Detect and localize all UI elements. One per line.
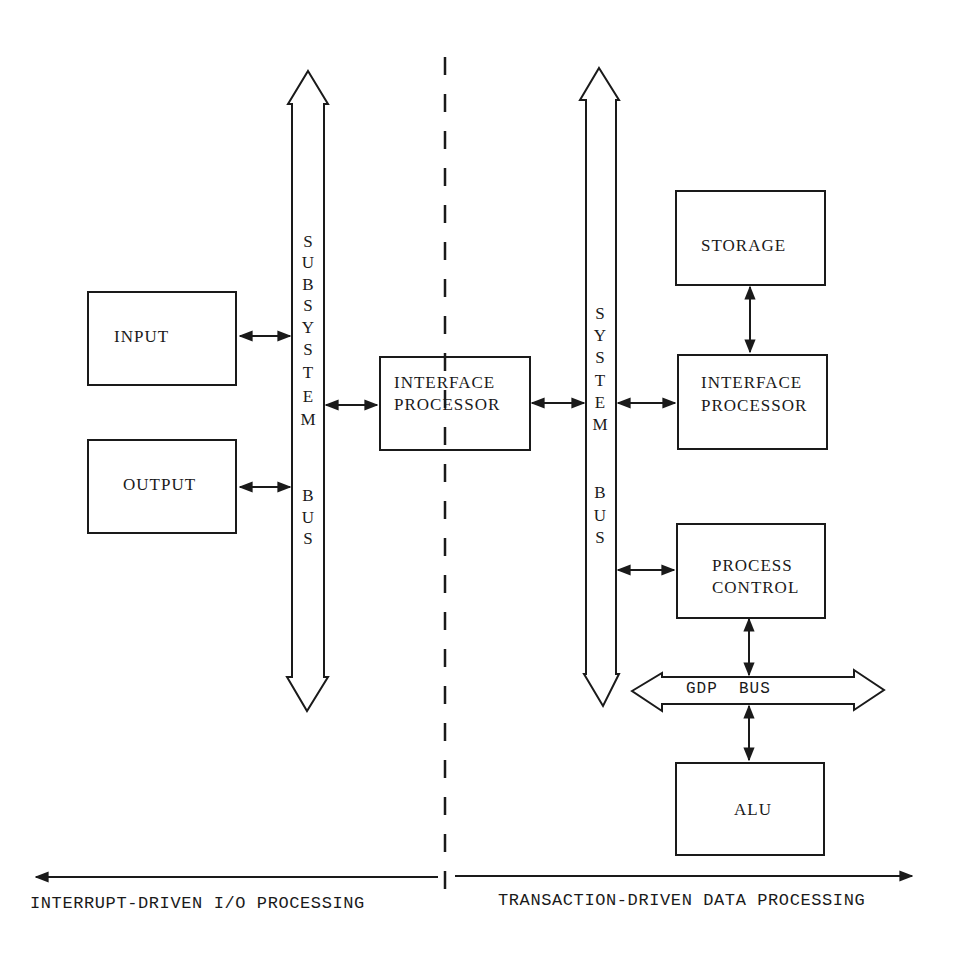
subsystem-bus-letter: S xyxy=(298,529,318,549)
system-bus-letter: T xyxy=(590,371,610,391)
transaction-driven-data-processing-label: TRANSACTION-DRIVEN DATA PROCESSING xyxy=(498,891,865,910)
subsystem-bus-letter: T xyxy=(298,363,318,383)
subsystem-bus-letter: Y xyxy=(298,318,318,338)
subsystem-bus-letter: U xyxy=(298,508,318,528)
system-bus-letter: S xyxy=(590,304,610,324)
system-bus-letter: U xyxy=(590,506,610,526)
system-bus-letter: E xyxy=(590,393,610,413)
system-bus-letter: Y xyxy=(590,326,610,346)
process-control-line1: PROCESS xyxy=(712,555,793,577)
gdp-bus-label: GDP BUS xyxy=(686,680,771,698)
input-block: INPUT xyxy=(87,291,237,386)
alu-block: ALU xyxy=(675,762,825,856)
storage-label: STORAGE xyxy=(701,235,786,257)
system-bus-letter: S xyxy=(590,348,610,368)
system-bus-letter: M xyxy=(590,415,610,435)
system-bus-letter: S xyxy=(590,528,610,548)
input-label: INPUT xyxy=(114,326,169,348)
alu-label: ALU xyxy=(734,799,772,821)
subsystem-bus-letter: B xyxy=(298,275,318,295)
subsystem-bus-letter: U xyxy=(298,253,318,273)
interface-processor-right-block: INTERFACE PROCESSOR xyxy=(677,354,828,450)
interrupt-driven-io-processing-label: INTERRUPT-DRIVEN I/O PROCESSING xyxy=(30,894,365,913)
process-control-block: PROCESS CONTROL xyxy=(676,523,826,619)
interface-processor-center-line2: PROCESSOR xyxy=(394,394,500,416)
system-bus-letter: B xyxy=(590,483,610,503)
subsystem-bus-letter: S xyxy=(298,232,318,252)
interface-processor-right-line1: INTERFACE xyxy=(701,372,802,394)
subsystem-bus-letter: S xyxy=(298,296,318,316)
interface-processor-center-block: INTERFACE PROCESSOR xyxy=(379,356,531,451)
subsystem-bus-letter: B xyxy=(298,486,318,506)
process-control-line2: CONTROL xyxy=(712,577,799,599)
output-label: OUTPUT xyxy=(123,474,196,496)
subsystem-bus-letter: S xyxy=(298,340,318,360)
storage-block: STORAGE xyxy=(675,190,826,286)
subsystem-bus-letter: M xyxy=(298,410,318,430)
subsystem-bus-letter: E xyxy=(298,387,318,407)
interface-processor-right-line2: PROCESSOR xyxy=(701,395,807,417)
architecture-diagram: INPUT OUTPUT INTERFACE PROCESSOR STORAGE… xyxy=(0,0,976,961)
interface-processor-center-line1: INTERFACE xyxy=(394,372,495,394)
output-block: OUTPUT xyxy=(87,439,237,534)
